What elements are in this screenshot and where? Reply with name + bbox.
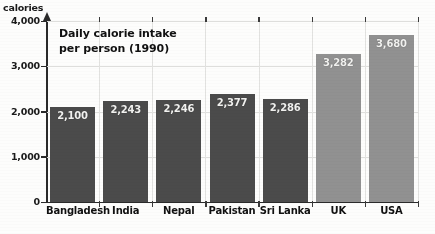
gridline-horizontal bbox=[46, 66, 418, 67]
y-axis-unit-label: calories bbox=[3, 2, 43, 13]
y-axis-tick-mark bbox=[41, 156, 47, 158]
x-axis-line bbox=[46, 202, 419, 203]
category-label: USA bbox=[365, 205, 418, 216]
bar: 2,243 bbox=[103, 101, 148, 202]
x-axis-tick-mark-top bbox=[418, 17, 419, 22]
category-label: India bbox=[99, 205, 152, 216]
x-axis-tick-mark-top bbox=[205, 17, 206, 22]
x-axis-tick-mark-top bbox=[99, 17, 100, 22]
bar-value-label: 2,100 bbox=[50, 110, 95, 121]
gridline-vertical bbox=[259, 21, 260, 202]
chart-title-line-1: Daily calorie intake bbox=[59, 27, 219, 42]
bar-value-label: 3,680 bbox=[369, 38, 414, 49]
gridline-vertical bbox=[365, 21, 366, 202]
calorie-intake-bar-chart: calories 4,0003,0002,0001,0000 2,1002,24… bbox=[0, 0, 435, 234]
bar-value-label: 3,282 bbox=[316, 57, 361, 68]
y-axis-tick-mark bbox=[41, 66, 47, 68]
category-label: UK bbox=[312, 205, 365, 216]
bar: 2,286 bbox=[263, 99, 308, 202]
bar-value-label: 2,377 bbox=[210, 97, 255, 108]
y-axis-tick-mark bbox=[41, 21, 47, 23]
category-label: Bangladesh bbox=[46, 205, 99, 216]
y-axis-tick-label-column: 4,0003,0002,0001,0000 bbox=[0, 21, 40, 202]
x-axis-tick-mark-top bbox=[258, 17, 259, 22]
x-axis-tick-mark bbox=[418, 201, 419, 207]
chart-title-line-2: per person (1990) bbox=[59, 42, 219, 57]
y-axis-tick-mark bbox=[41, 202, 47, 204]
bar-value-label: 2,243 bbox=[103, 104, 148, 115]
y-axis-tick-label: 1,000 bbox=[11, 151, 40, 162]
gridline-vertical bbox=[312, 21, 313, 202]
gridline-horizontal bbox=[46, 21, 418, 22]
category-label: Sri Lanka bbox=[259, 205, 312, 216]
category-label-row: BangladeshIndiaNepalPakistanSri LankaUKU… bbox=[46, 205, 418, 227]
bar: 2,100 bbox=[50, 107, 95, 202]
bar-value-label: 2,286 bbox=[263, 102, 308, 113]
bar: 2,246 bbox=[156, 100, 201, 202]
x-axis-tick-mark-top bbox=[312, 17, 313, 22]
y-axis-tick-mark bbox=[41, 111, 47, 113]
bar: 3,282 bbox=[316, 54, 361, 203]
bar-value-label: 2,246 bbox=[156, 103, 201, 114]
category-label: Pakistan bbox=[205, 205, 258, 216]
bar: 2,377 bbox=[210, 94, 255, 202]
y-axis-tick-label: 2,000 bbox=[11, 106, 40, 117]
x-axis-tick-mark-top bbox=[152, 17, 153, 22]
category-label: Nepal bbox=[152, 205, 205, 216]
y-axis-tick-label: 0 bbox=[34, 196, 40, 207]
y-axis-tick-label: 4,000 bbox=[11, 15, 40, 26]
chart-title: Daily calorie intake per person (1990) bbox=[59, 27, 219, 56]
y-axis-tick-label: 3,000 bbox=[11, 60, 40, 71]
x-axis-tick-mark-top bbox=[365, 17, 366, 22]
gridline-vertical bbox=[418, 21, 419, 202]
bar: 3,680 bbox=[369, 35, 414, 202]
